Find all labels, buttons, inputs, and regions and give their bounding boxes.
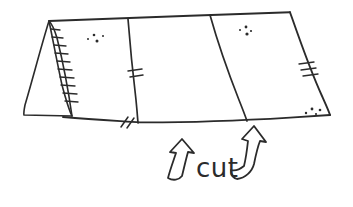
diagram-canvas: cut — [0, 0, 353, 207]
left-cut-arrow-icon — [168, 139, 194, 180]
cut-label: cut — [196, 153, 238, 183]
bottom-edge-tick-mark — [127, 118, 134, 128]
paper-speckle — [315, 113, 317, 115]
sheet-right-edge — [290, 12, 330, 115]
fold-tick-mark — [130, 75, 143, 77]
left-folded-flap — [24, 21, 72, 116]
paper-speckle — [239, 29, 241, 31]
flap-hatch-mark — [58, 69, 72, 70]
paper-speckle — [319, 109, 322, 112]
paper-speckle — [96, 40, 99, 43]
right-edge-hatch-mark — [301, 68, 316, 70]
paper-speckle — [250, 30, 252, 32]
paper-speckle — [245, 32, 248, 35]
paper-speckle — [102, 35, 104, 37]
flap-hatch-mark — [54, 45, 66, 46]
fold-and-cut-diagram: cut — [0, 0, 353, 207]
speckle-group — [87, 26, 321, 116]
paper-speckle — [311, 108, 314, 111]
sheet-top-edge — [49, 12, 290, 21]
paper-speckle — [93, 34, 96, 37]
paper-speckle — [245, 26, 248, 29]
right-edge-hatch-mark — [299, 62, 314, 64]
flap-hatch-group — [51, 29, 78, 102]
flap-hatch-mark — [61, 85, 75, 86]
right-edge-hatch-mark — [303, 74, 318, 76]
flap-hatch-mark — [60, 77, 74, 78]
flap-hatch-mark — [51, 29, 60, 30]
flap-hatch-mark — [55, 53, 68, 54]
paper-speckle — [87, 38, 89, 40]
paper-speckle — [305, 112, 307, 114]
fold-tick-mark — [128, 69, 142, 71]
flap-hatch-mark — [57, 61, 70, 62]
sheet-bottom-edge — [63, 115, 330, 122]
fold-line-2 — [210, 15, 247, 121]
flap-hatch-mark — [52, 37, 63, 38]
fold-line-tick-group — [128, 69, 143, 77]
